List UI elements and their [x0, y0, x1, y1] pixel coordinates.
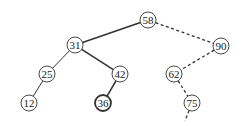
node-label: 12 — [24, 97, 35, 109]
node-label: 31 — [70, 39, 81, 51]
edge-25-12 — [33, 81, 43, 96]
tree-node-75: 75 — [184, 95, 200, 111]
tree-node-90: 90 — [213, 38, 229, 54]
node-label: 75 — [187, 97, 199, 109]
binary-tree-diagram: 583190254262123675 — [0, 0, 243, 126]
edge-42-36 — [107, 81, 116, 96]
node-label: 25 — [42, 68, 54, 80]
tree-node-58: 58 — [140, 12, 156, 28]
node-label: 58 — [143, 14, 155, 26]
tree-nodes: 583190254262123675 — [21, 12, 229, 111]
node-label: 42 — [115, 68, 126, 80]
edge-90-62 — [181, 50, 214, 70]
edge-58-90 — [156, 23, 214, 44]
node-label: 90 — [216, 40, 228, 52]
tree-node-62: 62 — [166, 66, 182, 82]
node-label: 62 — [169, 68, 180, 80]
tree-node-12: 12 — [21, 95, 37, 111]
edge-31-25 — [53, 51, 70, 68]
edge-31-42 — [82, 49, 114, 69]
node-label: 36 — [98, 97, 110, 109]
edge-75-open — [185, 110, 189, 121]
tree-node-25: 25 — [39, 66, 55, 82]
edge-58-31 — [83, 23, 141, 43]
tree-node-31: 31 — [67, 37, 83, 53]
tree-node-36: 36 — [95, 95, 111, 111]
edge-62-75 — [178, 81, 188, 96]
tree-node-42: 42 — [112, 66, 128, 82]
